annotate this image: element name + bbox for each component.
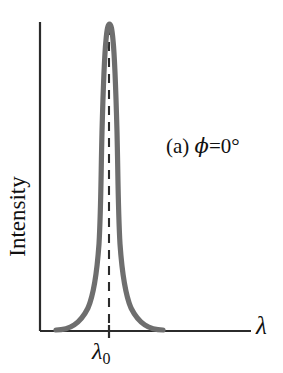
lambda-base-glyph: λ xyxy=(92,338,102,364)
panel-annotation: (a) ϕ=0° xyxy=(166,136,240,157)
lambda-subscript-glyph: 0 xyxy=(102,350,110,367)
y-axis-title: Intensity xyxy=(6,162,29,272)
plot-canvas xyxy=(0,0,283,373)
phi-symbol: ϕ xyxy=(195,134,209,158)
panel-letter-label: (a) xyxy=(166,134,189,158)
phi-value-label: 0° xyxy=(221,134,240,158)
x-axis-title: λ xyxy=(256,313,267,338)
x-axis-tick-label-lambda0: λ0 xyxy=(92,339,110,367)
spectral-peak-figure: Intensity λ λ0 (a) ϕ=0° xyxy=(0,0,283,373)
equals-symbol: = xyxy=(209,134,221,158)
